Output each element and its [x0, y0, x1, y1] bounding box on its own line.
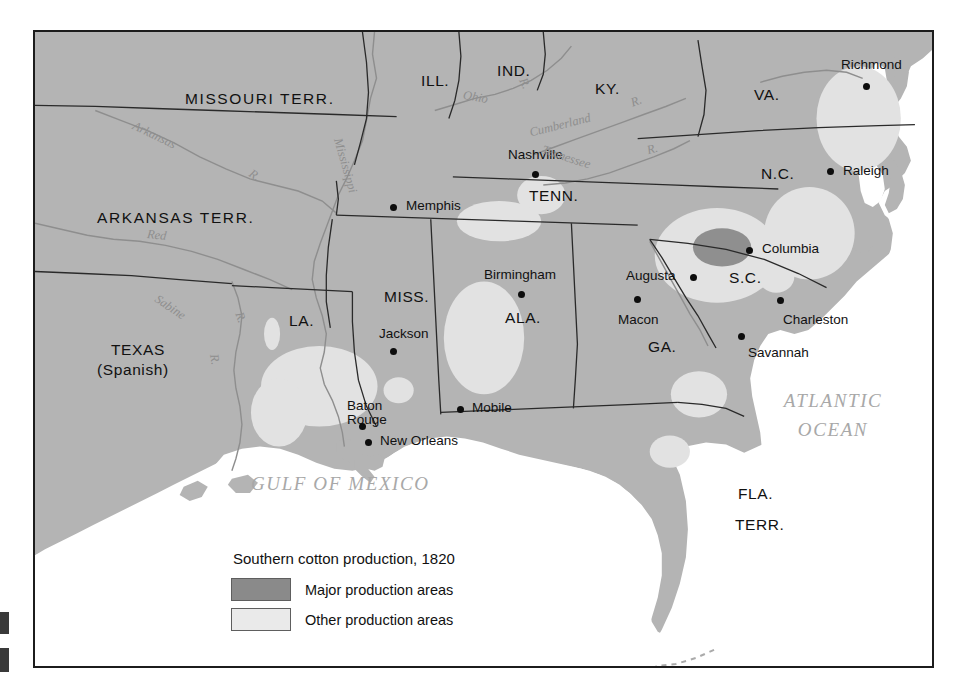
city-dot-augusta [690, 274, 697, 281]
state-label-tennessee: TENN. [529, 187, 579, 204]
city-dot-savannah [738, 333, 745, 340]
state-label-mississippi: MISS. [384, 288, 429, 305]
scan-edge-artifact [0, 648, 9, 672]
city-dot-baton-rouge [359, 423, 366, 430]
city-label-savannah: Savannah [748, 345, 809, 360]
city-dot-memphis [390, 204, 397, 211]
legend-label-major-production: Major production areas [305, 582, 453, 598]
state-label-texas: TEXAS [111, 341, 165, 358]
city-label-mobile: Mobile [472, 400, 512, 415]
legend-entry-major: Major production areas [231, 578, 561, 601]
state-label-florida-territory: TERR. [735, 516, 785, 533]
city-label-jackson: Jackson [379, 326, 429, 341]
city-dot-jackson [390, 348, 397, 355]
state-label-virginia: VA. [754, 86, 780, 103]
state-label-alabama: ALA. [505, 309, 541, 326]
river-label-sabine-r: R. [206, 353, 223, 366]
city-label-new-orleans: New Orleans [380, 433, 458, 448]
river-label-tennessee: Tennessee [540, 143, 592, 173]
city-label-charleston: Charleston [783, 312, 848, 327]
ocean-label-gulf-of-mexico: GULF OF MEXICO [251, 469, 430, 498]
city-dot-charleston [777, 297, 784, 304]
river-label-ohio: Ohio [462, 88, 489, 107]
city-label-raleigh: Raleigh [843, 163, 889, 178]
river-label-tennessee-r: R. [645, 141, 659, 158]
state-label-kentucky: KY. [595, 80, 620, 97]
state-label-louisiana: LA. [289, 312, 314, 329]
legend-swatch-major-production [231, 578, 291, 601]
legend-label-other-production: Other production areas [305, 612, 453, 628]
ocean-label-atlantic-line1: ATLANTIC [773, 386, 893, 415]
state-label-south-carolina: S.C. [729, 269, 762, 286]
legend-title: Southern cotton production, 1820 [233, 550, 561, 567]
city-dot-birmingham [518, 291, 525, 298]
river-label-cumberland: Cumberland [528, 111, 592, 141]
map-figure: MISSOURI TERR. ARKANSAS TERR. ILL. IND. … [0, 0, 957, 695]
city-label-birmingham: Birmingham [484, 267, 556, 282]
state-label-missouri-territory: MISSOURI TERR. [185, 90, 335, 107]
river-label-red: Red [146, 227, 167, 244]
city-dot-mobile [457, 406, 464, 413]
city-dot-richmond [863, 83, 870, 90]
city-dot-nashville [532, 171, 539, 178]
city-label-richmond: Richmond [841, 57, 902, 72]
city-label-columbia: Columbia [762, 241, 819, 256]
river-label-arkansas-r: R. [246, 166, 263, 184]
city-dot-macon [634, 296, 641, 303]
state-label-florida: FLA. [738, 485, 773, 502]
city-label-augusta: Augusta [626, 268, 676, 283]
map-legend: Southern cotton production, 1820 Major p… [231, 550, 561, 638]
river-label-mississippi: Mississippi [330, 136, 360, 194]
city-dot-new-orleans [365, 439, 372, 446]
legend-swatch-other-production [231, 608, 291, 631]
city-dot-columbia [746, 247, 753, 254]
river-label-red-r: R. [231, 310, 249, 325]
map-frame: MISSOURI TERR. ARKANSAS TERR. ILL. IND. … [33, 30, 934, 668]
state-label-georgia: GA. [648, 338, 677, 355]
map-label-layer: MISSOURI TERR. ARKANSAS TERR. ILL. IND. … [35, 32, 928, 662]
state-label-texas-spanish: (Spanish) [97, 361, 169, 378]
legend-entry-other: Other production areas [231, 608, 561, 631]
city-label-macon: Macon [618, 312, 659, 327]
city-label-baton-rouge: BatonRouge [347, 399, 387, 427]
scan-edge-artifact [0, 612, 9, 634]
state-label-north-carolina: N.C. [761, 165, 794, 182]
river-label-sabine: Sabine [152, 292, 189, 323]
state-label-illinois: ILL. [421, 72, 449, 89]
city-dot-raleigh [827, 168, 834, 175]
ocean-label-atlantic-line2: OCEAN [773, 415, 893, 444]
state-label-arkansas-territory: ARKANSAS TERR. [97, 209, 254, 226]
river-label-arkansas: Arkansas [130, 119, 178, 153]
river-label-cumberland-r: R. [629, 93, 644, 111]
ocean-label-atlantic-ocean: ATLANTIC OCEAN [773, 386, 893, 445]
city-label-memphis: Memphis [406, 198, 461, 213]
